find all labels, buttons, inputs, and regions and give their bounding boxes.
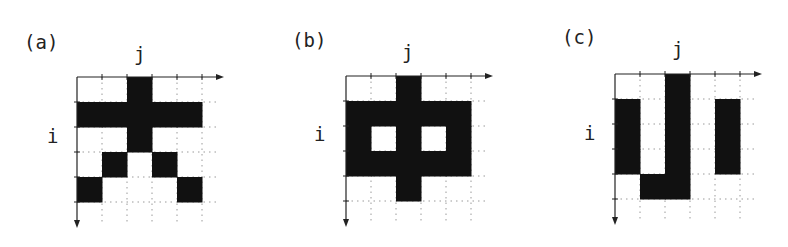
j-axis-arrow-icon: [216, 74, 224, 80]
filled-cell: [446, 126, 472, 152]
filled-cell: [665, 99, 691, 125]
filled-cell: [371, 101, 397, 127]
filled-cell: [715, 99, 741, 125]
i-axis-arrow-icon: [343, 219, 349, 227]
j-axis-arrow-icon: [754, 71, 762, 77]
filled-cell: [102, 152, 128, 178]
filled-cell: [396, 176, 422, 202]
filled-cell: [127, 127, 153, 153]
filled-cell: [396, 151, 422, 177]
filled-cell: [77, 177, 103, 203]
filled-cell: [446, 151, 472, 177]
filled-cell: [421, 101, 447, 127]
panel-b: (b) j i: [268, 0, 530, 247]
filled-cell: [446, 101, 472, 127]
filled-cell: [615, 149, 641, 175]
filled-cell: [127, 77, 153, 103]
filled-cell: [396, 101, 422, 127]
filled-cell: [102, 102, 128, 128]
panel-c: (c) j i: [528, 0, 788, 247]
i-axis-arrow-icon: [612, 217, 618, 225]
filled-cell: [77, 102, 103, 128]
filled-cell: [396, 76, 422, 102]
filled-cell: [152, 152, 178, 178]
filled-cell: [665, 149, 691, 175]
j-axis-arrow-icon: [485, 73, 493, 79]
panel-a: (a) j i: [0, 0, 262, 247]
filled-cell: [127, 102, 153, 128]
filled-cell: [640, 174, 666, 200]
filled-cell: [346, 126, 372, 152]
filled-cell: [615, 99, 641, 125]
filled-cell: [665, 124, 691, 150]
binary-grid-a: [0, 0, 262, 247]
filled-cell: [177, 177, 203, 203]
filled-cell: [615, 124, 641, 150]
filled-cell: [152, 102, 178, 128]
filled-cell: [177, 102, 203, 128]
i-axis-arrow-icon: [74, 220, 80, 228]
filled-cell: [665, 174, 691, 200]
filled-cell: [421, 151, 447, 177]
filled-cell: [371, 151, 397, 177]
filled-cell: [715, 124, 741, 150]
binary-grid-c: [528, 0, 788, 247]
filled-cell: [346, 101, 372, 127]
filled-cell: [665, 74, 691, 100]
filled-cell: [346, 151, 372, 177]
filled-cell: [715, 149, 741, 175]
binary-grid-b: [268, 0, 530, 247]
filled-cell: [396, 126, 422, 152]
